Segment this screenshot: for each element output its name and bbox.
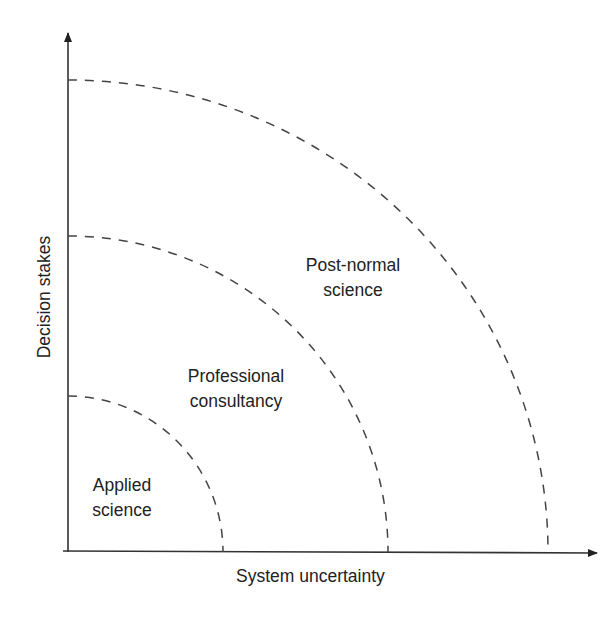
zone-label-professional-consultancy: Professional consultancy <box>170 364 302 414</box>
x-axis-line <box>63 551 597 553</box>
zone-label-line: Post-normal <box>290 253 416 278</box>
x-axis-label: System uncertainty <box>236 566 385 587</box>
zone-label-line: science <box>82 498 162 523</box>
zone-label-applied-science: Applied science <box>82 473 162 523</box>
y-axis-label: Decision stakes <box>34 236 55 359</box>
zone-label-line: science <box>290 278 416 303</box>
diagram-canvas <box>0 0 614 625</box>
zone-label-line: Applied <box>82 473 162 498</box>
zone-label-post-normal-science: Post-normal science <box>290 253 416 303</box>
zone-label-line: consultancy <box>170 389 302 414</box>
zone-label-line: Professional <box>170 364 302 389</box>
